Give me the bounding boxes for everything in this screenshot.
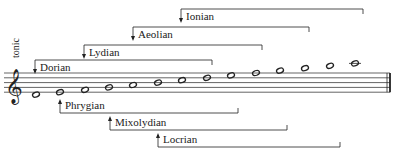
mode-ionian: Ionian [179,9,363,23]
arrow-down-icon [179,18,183,23]
arrow-down-icon [82,54,86,59]
mode-label: Mixolydian [115,116,167,128]
mode-aeolian: Aeolian [131,27,309,41]
note-A5 [301,65,309,72]
treble-clef-icon: 𝄞 [5,68,23,105]
mode-label: Locrian [163,133,198,145]
note-C6 [349,60,361,67]
mode-label: Ionian [186,10,215,22]
tonic-label: tonic [10,37,21,58]
mode-lydian: Lydian [82,45,262,59]
mode-label: Aeolian [138,28,173,40]
mode-label: Dorian [40,61,71,73]
mode-diagram: 𝄞 IonianAeolianLydianDorianPhrygianMixol… [0,0,396,153]
mode-phrygian: Phrygian [58,99,238,113]
note-B5 [326,62,334,69]
svg-text:𝄞: 𝄞 [5,68,23,105]
mode-dorian: Dorian [33,60,212,74]
mode-label: Lydian [89,46,120,58]
arrow-up-icon [58,99,62,104]
mode-locrian: Locrian [156,133,340,147]
arrow-up-icon [156,133,160,138]
arrow-down-icon [131,36,135,41]
arrow-up-icon [108,116,112,121]
mode-label: Phrygian [65,99,105,111]
mode-mixolydian: Mixolydian [108,116,287,130]
